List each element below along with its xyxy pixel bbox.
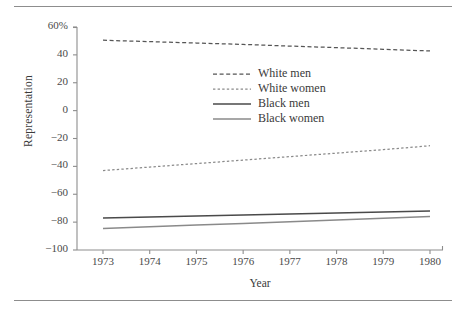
y-tick-label: −20	[28, 131, 68, 143]
y-tick-label: 20	[28, 75, 68, 87]
legend-item[interactable]: White men	[212, 66, 382, 81]
x-tick-label: 1976	[220, 255, 266, 267]
y-tick-label: −40	[28, 158, 68, 170]
x-axis-title: Year	[77, 277, 443, 289]
legend-label: Black women	[252, 111, 324, 126]
series-line-black-women	[103, 217, 430, 229]
y-axis-tick-labels: 60%40200−20−40−60−80−100	[28, 0, 68, 260]
legend-line-swatch	[212, 69, 252, 79]
x-tick-label: 1975	[173, 255, 219, 267]
x-tick-label: 1978	[314, 255, 360, 267]
x-axis-ticks	[103, 250, 430, 254]
legend-label: White men	[252, 66, 311, 81]
figure-frame: 60%40200−20−40−60−80−100 Representation …	[0, 0, 466, 315]
legend-label: White women	[252, 81, 326, 96]
x-tick-label: 1980	[407, 255, 453, 267]
x-tick-label: 1979	[360, 255, 406, 267]
legend-item[interactable]: Black men	[212, 96, 382, 111]
axes-group	[73, 27, 443, 254]
chart-legend: White menWhite womenBlack menBlack women	[212, 66, 382, 126]
y-tick-label: 60%	[28, 19, 68, 31]
y-tick-label: −100	[28, 242, 68, 254]
series-line-white-men	[103, 40, 430, 51]
x-tick-label: 1974	[127, 255, 173, 267]
y-axis-title: Representation	[22, 51, 34, 171]
y-tick-label: −80	[28, 214, 68, 226]
series-line-black-men	[103, 211, 430, 218]
x-tick-label: 1973	[80, 255, 126, 267]
legend-line-swatch	[212, 114, 252, 124]
y-tick-label: −60	[28, 186, 68, 198]
y-axis-ticks	[73, 27, 77, 250]
x-tick-label: 1977	[267, 255, 313, 267]
y-tick-label: 0	[28, 103, 68, 115]
series-line-white-women	[103, 146, 430, 171]
legend-line-swatch	[212, 99, 252, 109]
legend-label: Black men	[252, 96, 310, 111]
legend-line-swatch	[212, 84, 252, 94]
y-tick-label: 40	[28, 47, 68, 59]
legend-item[interactable]: White women	[212, 81, 382, 96]
legend-item[interactable]: Black women	[212, 111, 382, 126]
line-chart-plot	[0, 0, 466, 315]
